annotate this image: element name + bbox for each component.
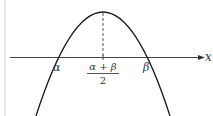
beta-label: β [143, 62, 149, 74]
x-axis-arrow-icon [198, 55, 205, 60]
parabola-diagram [0, 0, 213, 116]
fraction-numerator: α + β [85, 61, 121, 72]
fraction-bar [87, 73, 119, 74]
alpha-label: α [53, 62, 60, 74]
x-axis-label: x [205, 51, 212, 63]
vertex-x-fraction: α + β 2 [85, 61, 121, 86]
fraction-denominator: 2 [85, 75, 121, 86]
